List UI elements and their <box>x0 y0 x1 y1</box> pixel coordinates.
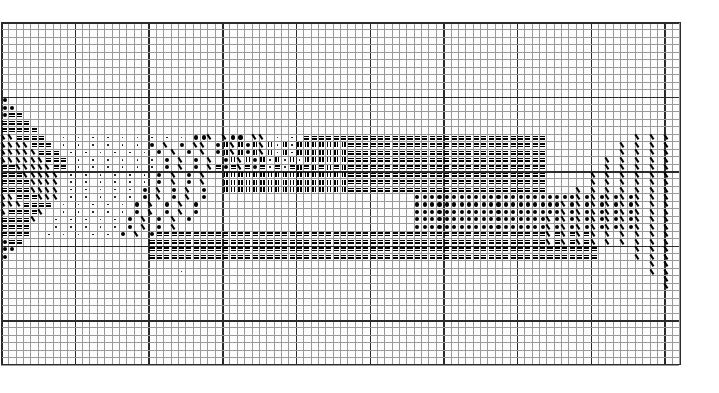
stitch-cell-eq[interactable] <box>480 238 487 245</box>
stitch-cell-bslash[interactable] <box>8 193 15 200</box>
stitch-cell-u[interactable] <box>288 156 295 163</box>
stitch-cell-bigdot[interactable] <box>1 104 8 111</box>
stitch-cell-eq[interactable] <box>436 178 443 185</box>
stitch-cell-eq[interactable] <box>355 134 362 141</box>
stitch-cell-eq[interactable] <box>185 238 192 245</box>
stitch-cell-eq[interactable] <box>392 246 399 253</box>
stitch-cell-bigdot[interactable] <box>524 208 531 215</box>
stitch-cell-eq[interactable] <box>487 238 494 245</box>
stitch-cell-bslash[interactable] <box>664 178 671 185</box>
stitch-cell-eq[interactable] <box>399 178 406 185</box>
stitch-cell-eq[interactable] <box>207 253 214 260</box>
stitch-cell-eq[interactable] <box>38 149 45 156</box>
stitch-cell-bslash[interactable] <box>635 178 642 185</box>
stitch-cell-eq[interactable] <box>458 141 465 148</box>
stitch-cell-dot[interactable] <box>178 134 185 141</box>
stitch-cell-eq[interactable] <box>532 171 539 178</box>
stitch-cell-eq[interactable] <box>45 141 52 148</box>
stitch-cell-bslash[interactable] <box>620 149 627 156</box>
stitch-cell-eq[interactable] <box>443 134 450 141</box>
stitch-cell-dot[interactable] <box>104 141 111 148</box>
stitch-cell-eq[interactable] <box>517 178 524 185</box>
stitch-cell-bslash[interactable] <box>576 186 583 193</box>
stitch-cell-eq[interactable] <box>473 149 480 156</box>
stitch-cell-eq[interactable] <box>215 238 222 245</box>
stitch-cell-eq[interactable] <box>539 171 546 178</box>
stitch-cell-eq[interactable] <box>465 171 472 178</box>
stitch-cell-bigdot[interactable] <box>458 216 465 223</box>
stitch-cell-eq[interactable] <box>443 231 450 238</box>
stitch-cell-eq[interactable] <box>465 178 472 185</box>
stitch-cell-bslash[interactable] <box>200 141 207 148</box>
stitch-cell-eq[interactable] <box>458 231 465 238</box>
stitch-cell-eq[interactable] <box>266 253 273 260</box>
stitch-cell-eq[interactable] <box>487 164 494 171</box>
stitch-cell-bslash[interactable] <box>635 208 642 215</box>
stitch-cell-eq[interactable] <box>473 171 480 178</box>
stitch-cell-eq[interactable] <box>163 253 170 260</box>
stitch-cell-bigdot[interactable] <box>517 193 524 200</box>
stitch-cell-bigdot[interactable] <box>517 216 524 223</box>
stitch-cell-u[interactable] <box>303 171 310 178</box>
stitch-cell-eq[interactable] <box>362 231 369 238</box>
stitch-cell-dot[interactable] <box>60 134 67 141</box>
stitch-cell-eq[interactable] <box>502 238 509 245</box>
stitch-cell-eq[interactable] <box>303 134 310 141</box>
stitch-cell-bigdot[interactable] <box>510 193 517 200</box>
stitch-cell-eq[interactable] <box>414 238 421 245</box>
stitch-cell-bigdot[interactable] <box>443 201 450 208</box>
stitch-cell-eq[interactable] <box>8 126 15 133</box>
stitch-cell-eq[interactable] <box>8 119 15 126</box>
stitch-cell-eq[interactable] <box>583 253 590 260</box>
stitch-cell-eq[interactable] <box>237 253 244 260</box>
stitch-cell-eq[interactable] <box>480 134 487 141</box>
stitch-cell-eq[interactable] <box>45 156 52 163</box>
stitch-cell-eq[interactable] <box>325 134 332 141</box>
stitch-cell-eq[interactable] <box>392 253 399 260</box>
stitch-cell-eq[interactable] <box>288 253 295 260</box>
stitch-cell-eq[interactable] <box>458 246 465 253</box>
stitch-cell-eq[interactable] <box>200 246 207 253</box>
stitch-cell-bslash[interactable] <box>635 134 642 141</box>
stitch-cell-eq[interactable] <box>384 134 391 141</box>
stitch-cell-eq[interactable] <box>8 223 15 230</box>
stitch-cell-eq[interactable] <box>1 178 8 185</box>
stitch-cell-bigdot[interactable] <box>487 208 494 215</box>
stitch-cell-u[interactable] <box>244 171 251 178</box>
stitch-cell-eq[interactable] <box>370 238 377 245</box>
stitch-cell-eq[interactable] <box>288 238 295 245</box>
stitch-cell-eq[interactable] <box>207 238 214 245</box>
stitch-cell-eq[interactable] <box>296 238 303 245</box>
stitch-cell-bigdot[interactable] <box>156 178 163 185</box>
stitch-cell-eq[interactable] <box>436 164 443 171</box>
stitch-cell-eq[interactable] <box>229 246 236 253</box>
stitch-cell-eq[interactable] <box>414 164 421 171</box>
stitch-cell-u[interactable] <box>266 141 273 148</box>
stitch-cell-bslash[interactable] <box>605 216 612 223</box>
stitch-cell-eq[interactable] <box>23 208 30 215</box>
stitch-cell-dot[interactable] <box>119 164 126 171</box>
stitch-cell-dot[interactable] <box>75 156 82 163</box>
stitch-cell-eq[interactable] <box>311 253 318 260</box>
stitch-cell-eq[interactable] <box>355 164 362 171</box>
stitch-cell-eq[interactable] <box>384 164 391 171</box>
stitch-cell-eq[interactable] <box>480 156 487 163</box>
stitch-cell-eq[interactable] <box>392 238 399 245</box>
stitch-cell-bslash[interactable] <box>664 223 671 230</box>
stitch-cell-eq[interactable] <box>200 253 207 260</box>
stitch-cell-u[interactable] <box>296 186 303 193</box>
stitch-cell-u[interactable] <box>318 186 325 193</box>
stitch-cell-eq[interactable] <box>414 246 421 253</box>
stitch-cell-eq[interactable] <box>399 149 406 156</box>
stitch-cell-eq[interactable] <box>406 171 413 178</box>
stitch-cell-eq[interactable] <box>465 246 472 253</box>
stitch-cell-bslash[interactable] <box>1 208 8 215</box>
stitch-cell-eq[interactable] <box>340 231 347 238</box>
stitch-cell-eq[interactable] <box>30 201 37 208</box>
stitch-cell-eq[interactable] <box>591 253 598 260</box>
stitch-cell-eq[interactable] <box>406 141 413 148</box>
stitch-cell-eq[interactable] <box>510 156 517 163</box>
stitch-cell-eq[interactable] <box>1 186 8 193</box>
stitch-cell-bslash[interactable] <box>635 253 642 260</box>
stitch-cell-eq[interactable] <box>443 149 450 156</box>
